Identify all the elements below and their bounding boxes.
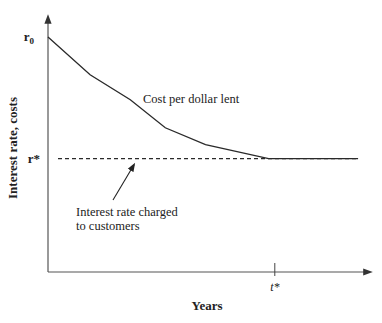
annotation-interest-rate-line2: to customers bbox=[76, 219, 140, 233]
chart: r0 r* t* Cost per dollar lent Interest r… bbox=[0, 0, 382, 323]
y-axis-label: Interest rate, costs bbox=[5, 97, 20, 199]
y-tick-label-rstar: r* bbox=[28, 151, 40, 166]
x-axis-label: Years bbox=[191, 298, 222, 313]
annotation-cost-per-dollar-lent: Cost per dollar lent bbox=[143, 92, 240, 106]
annotation-arrow bbox=[113, 165, 134, 200]
y-tick-label-r0: r0 bbox=[24, 29, 35, 46]
x-tick-label-tstar: t* bbox=[270, 280, 279, 294]
annotation-interest-rate-line1: Interest rate charged bbox=[76, 205, 179, 219]
